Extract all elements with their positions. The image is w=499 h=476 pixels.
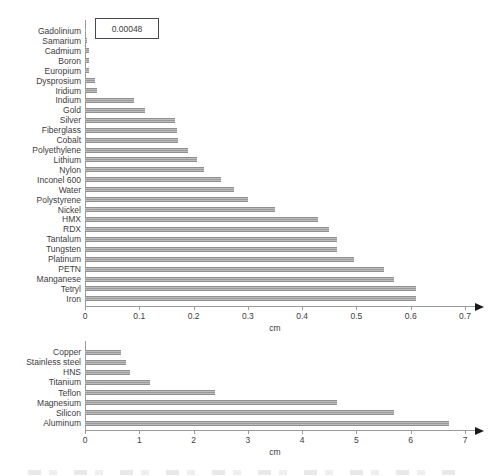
category-label: Copper [0, 347, 85, 357]
bar [85, 28, 86, 33]
bar [85, 296, 416, 301]
x-tick-label: 0.2 [188, 311, 200, 321]
category-label: Nylon [0, 165, 85, 175]
bar [85, 237, 337, 242]
x-tick-mark [302, 306, 303, 310]
x-tick-mark [465, 430, 466, 434]
category-label: Magnesium [0, 398, 85, 408]
bar-row: HNS [0, 367, 449, 377]
bar-row: Aluminum [0, 418, 449, 428]
bar-row: Water [0, 185, 416, 195]
bar [85, 410, 394, 415]
category-label: Stainless steel [0, 357, 85, 367]
category-label: Teflon [0, 388, 85, 398]
bar [85, 157, 197, 162]
category-label: Tungsten [0, 244, 85, 254]
category-label: Tantalum [0, 234, 85, 244]
x-axis-title: cm [85, 323, 465, 333]
x-tick-mark [465, 306, 466, 310]
category-label: Gadolinium [0, 26, 85, 36]
category-label: Manganese [0, 274, 85, 284]
bar-row: Tetryl [0, 284, 416, 294]
x-tick-label: 6 [408, 435, 413, 445]
category-label: Tetryl [0, 284, 85, 294]
bar-row: Iron [0, 294, 416, 304]
bar [85, 128, 177, 133]
x-tick-mark [194, 430, 195, 434]
bar [85, 360, 126, 365]
category-label: Lithium [0, 155, 85, 165]
bar-row: PETN [0, 264, 416, 274]
bar-row: Copper [0, 347, 449, 357]
bar-row: Tantalum [0, 234, 416, 244]
x-tick-mark [411, 306, 412, 310]
bar [85, 98, 134, 103]
bar-row: Gold [0, 105, 416, 115]
bar [85, 108, 145, 113]
x-tick-label: 4 [300, 435, 305, 445]
bar [85, 187, 234, 192]
category-label: Aluminum [0, 418, 85, 428]
x-tick-mark [302, 430, 303, 434]
bar-row: Silver [0, 115, 416, 125]
category-label: Iridium [0, 86, 85, 96]
bar-row: Iridium [0, 86, 416, 96]
bar-row: Manganese [0, 274, 416, 284]
x-axis-title: cm [85, 447, 465, 457]
bar-row: Indium [0, 95, 416, 105]
bar-rows: CopperStainless steelHNSTitaniumTeflonMa… [0, 347, 449, 428]
bar-row: Teflon [0, 388, 449, 398]
bar [85, 167, 204, 172]
category-label: Platinum [0, 254, 85, 264]
bar-row: HMX [0, 215, 416, 225]
category-label: Europium [0, 66, 85, 76]
category-label: PETN [0, 264, 85, 274]
bar [85, 380, 150, 385]
x-tick-label: 0.7 [459, 311, 471, 321]
category-label: Gold [0, 105, 85, 115]
axis-arrow-icon [475, 303, 484, 311]
category-label: Inconel 600 [0, 175, 85, 185]
bar [85, 267, 384, 272]
category-label: Silicon [0, 408, 85, 418]
bar-row: Polyethylene [0, 145, 416, 155]
x-tick-label: 0.3 [242, 311, 254, 321]
x-tick-mark [248, 430, 249, 434]
bar [85, 88, 97, 93]
x-tick-mark [194, 306, 195, 310]
category-label: Nickel [0, 205, 85, 215]
bar-row: Stainless steel [0, 357, 449, 367]
category-label: Dysprosium [0, 76, 85, 86]
bar-row: Nylon [0, 165, 416, 175]
bar [85, 227, 329, 232]
category-label: Indium [0, 95, 85, 105]
bar-row: Platinum [0, 254, 416, 264]
x-tick-label: 3 [245, 435, 250, 445]
category-label: RDX [0, 224, 85, 234]
bar-row: Nickel [0, 205, 416, 215]
bar [85, 217, 318, 222]
bar [85, 207, 275, 212]
bar [85, 370, 130, 375]
category-label: Titanium [0, 377, 85, 387]
bar [85, 400, 337, 405]
x-tick-label: 2 [191, 435, 196, 445]
x-tick-label: 5 [354, 435, 359, 445]
bar-row: Polystyrene [0, 195, 416, 205]
bar [85, 286, 416, 291]
bar-row: Cobalt [0, 135, 416, 145]
category-label: Fiberglass [0, 125, 85, 135]
x-tick-mark [248, 306, 249, 310]
x-tick-label: 0.1 [133, 311, 145, 321]
bar-row: Boron [0, 56, 416, 66]
bar [85, 68, 89, 73]
bar [85, 48, 89, 53]
x-tick-label: 0.6 [405, 311, 417, 321]
category-label: HNS [0, 367, 85, 377]
category-label: Water [0, 185, 85, 195]
bar [85, 390, 215, 395]
bar [85, 138, 178, 143]
category-label: Boron [0, 56, 85, 66]
x-tick-mark [85, 306, 86, 310]
bar-row: Gadolinium [0, 26, 416, 36]
